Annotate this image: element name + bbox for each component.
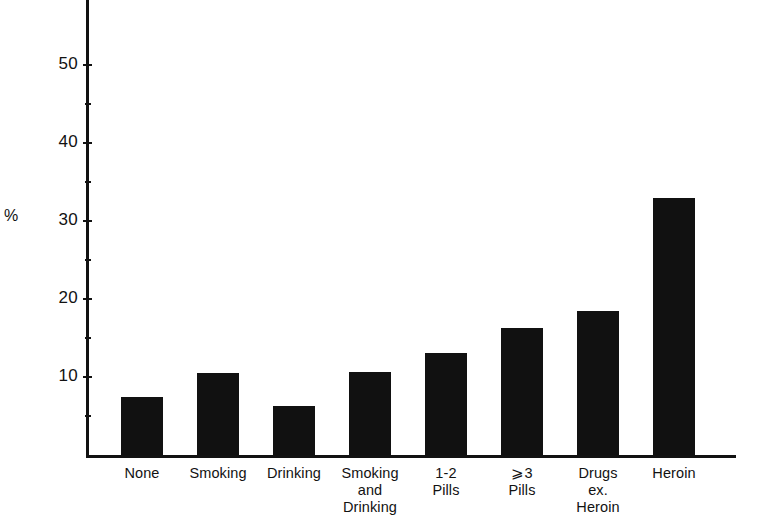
category-label-line: ex. xyxy=(552,482,644,499)
bars-layer xyxy=(0,0,776,521)
bar-chart-figure: % 1020304050 NoneSmokingDrinkingSmokinga… xyxy=(0,0,776,521)
x-axis-category-label: Heroin xyxy=(628,465,720,482)
category-label-line: Drinking xyxy=(324,499,416,516)
bar xyxy=(577,311,619,455)
bar xyxy=(273,406,315,455)
bar xyxy=(501,328,543,455)
bar xyxy=(653,198,695,455)
category-label-line: Heroin xyxy=(628,465,720,482)
bar xyxy=(121,397,163,456)
bar xyxy=(349,372,391,455)
bar xyxy=(425,353,467,455)
bar xyxy=(197,373,239,455)
category-label-line: Heroin xyxy=(552,499,644,516)
